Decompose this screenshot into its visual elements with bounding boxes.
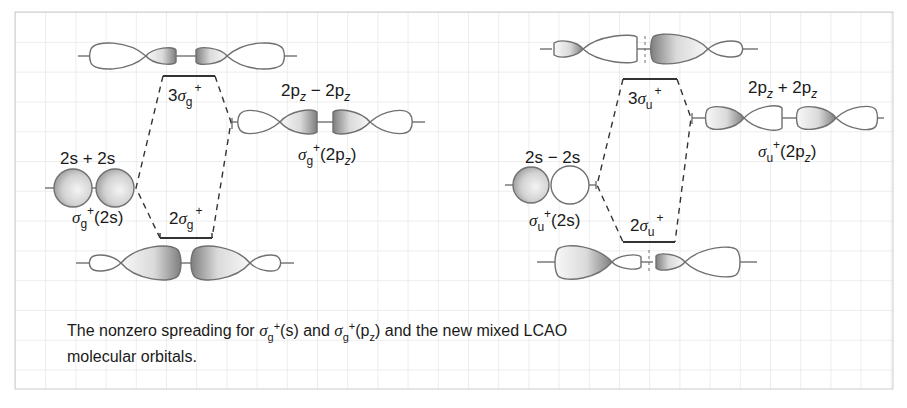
label-sigma-g-2s: σg+(2s) <box>72 204 123 231</box>
caption-text: (s) <box>280 322 299 339</box>
label-2s-plus-2s: 2s + 2s <box>60 149 115 168</box>
caption-text: The nonzero spreading for <box>67 322 259 339</box>
caption-text: and <box>299 322 335 339</box>
figure-caption: The nonzero spreading for σg+(s) and σg+… <box>67 316 827 367</box>
caption-sub: g <box>343 331 349 343</box>
label-2s-minus-2s: 2s − 2s <box>525 148 580 167</box>
label-sigma-u-2s: σu+(2s) <box>529 207 580 234</box>
caption-sub: g <box>268 331 274 343</box>
caption-text: (p <box>355 322 369 339</box>
caption-sigma-1: σ <box>259 321 267 340</box>
caption-sigma-2: σ <box>334 321 342 340</box>
caption-text: and the new mixed LCAO <box>380 322 567 339</box>
caption-line-2: molecular orbitals. <box>67 348 197 365</box>
